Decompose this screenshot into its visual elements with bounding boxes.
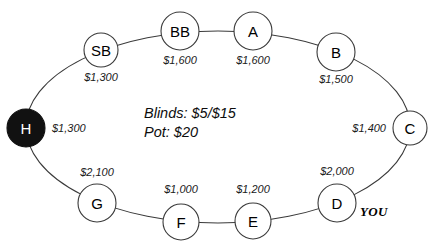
seat-letter-sb: SB [91, 42, 111, 59]
stack-amount-h: $1,300 [51, 122, 87, 134]
seat-a[interactable]: A$1,600 [234, 12, 272, 66]
seat-e[interactable]: E$1,200 [235, 183, 271, 239]
seat-c[interactable]: C$1,400 [351, 111, 427, 145]
seat-h[interactable]: H$1,300 [7, 109, 87, 147]
stack-amount-d: $2,000 [319, 165, 355, 177]
seat-letter-g: G [91, 195, 103, 212]
pot-text: Pot: $20 [144, 124, 198, 140]
table-svg: SB$1,300BB$1,600A$1,600B$1,500C$1,400D$2… [0, 0, 432, 248]
seat-letter-d: D [332, 195, 343, 212]
seat-d[interactable]: D$2,000 [318, 165, 356, 222]
seat-letter-a: A [248, 23, 258, 40]
stack-amount-c: $1,400 [351, 122, 387, 134]
seat-bb[interactable]: BB$1,600 [161, 12, 199, 66]
seat-letter-h: H [21, 120, 32, 137]
hero-you-label: YOU [360, 204, 388, 219]
seat-letter-bb: BB [170, 23, 190, 40]
seat-sb[interactable]: SB$1,300 [83, 33, 119, 83]
poker-table-diagram: SB$1,300BB$1,600A$1,600B$1,500C$1,400D$2… [0, 0, 432, 248]
seat-f[interactable]: F$1,000 [163, 183, 199, 240]
stack-amount-b: $1,500 [318, 73, 354, 85]
seat-letter-f: F [176, 214, 185, 231]
seat-b[interactable]: B$1,500 [317, 33, 355, 85]
stack-amount-g: $2,100 [79, 166, 115, 178]
stack-amount-f: $1,000 [163, 183, 199, 195]
stack-amount-a: $1,600 [235, 54, 271, 66]
stack-amount-bb: $1,600 [162, 54, 198, 66]
seat-g[interactable]: G$2,100 [78, 166, 116, 222]
stack-amount-e: $1,200 [235, 183, 271, 195]
blinds-text: Blinds: $5/$15 [144, 105, 237, 121]
stack-amount-sb: $1,300 [83, 71, 119, 83]
seat-letter-e: E [248, 213, 258, 230]
seat-letter-c: C [405, 120, 416, 137]
seat-letter-b: B [331, 44, 341, 61]
